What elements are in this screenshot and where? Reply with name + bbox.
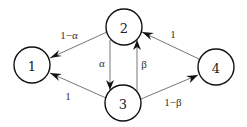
node-4: 4 — [198, 49, 234, 85]
arrowhead-icon — [50, 73, 62, 81]
node-label: 3 — [119, 97, 127, 112]
node-2: 2 — [106, 9, 142, 45]
edge-3-to-2: β — [133, 40, 147, 91]
edge-label-2-1: 1−α — [60, 29, 78, 41]
node-1: 1 — [14, 47, 50, 83]
edge-label-4-2: 1 — [170, 28, 176, 40]
edge-4-to-2: 1 — [142, 28, 199, 59]
edge-2-to-3: α — [99, 40, 114, 90]
edge-2-to-1: 1−α — [50, 29, 107, 58]
state-diagram: 1−α α β 1 1 1−β 1 2 3 — [0, 0, 247, 127]
arrowhead-icon — [142, 32, 154, 40]
edge-label-3-1: 1 — [65, 90, 71, 102]
node-label: 2 — [120, 21, 128, 36]
edge-label-2-3: α — [99, 57, 105, 69]
edge-3-to-1: 1 — [50, 73, 106, 102]
edge-label-3-4: 1−β — [164, 96, 182, 108]
edge-3-to-4: 1−β — [141, 75, 198, 108]
edge-label-3-2: β — [141, 58, 147, 70]
arrowhead-icon — [50, 50, 62, 58]
node-label: 4 — [212, 61, 220, 76]
node-3: 3 — [105, 85, 141, 121]
node-label: 1 — [28, 59, 36, 74]
